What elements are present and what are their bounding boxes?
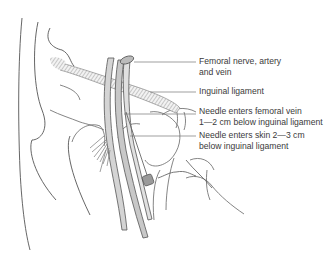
label-line-2: 1—2 cm below inguinal ligament [199,117,323,128]
thigh-outline [186,160,212,188]
body-outline [19,18,90,250]
label-line-1: Needle enters skin 2—3 cm [199,130,305,141]
label-line-1: Inguinal ligament [199,86,264,97]
label-needle-enters-skin: Needle enters skin 2—3 cm below inguinal… [199,130,305,151]
label-line-1: Needle enters femoral vein [199,106,323,117]
label-needle-enters-femoral-vein: Needle enters femoral vein 1—2 cm below … [199,106,323,127]
label-line-2: and vein [199,67,281,78]
label-line-2: below inguinal ligament [199,141,305,152]
femoral-anatomy-illustration [0,0,325,257]
label-femoral-nerve-artery-vein: Femoral nerve, artery and vein [199,56,281,77]
label-line-1: Femoral nerve, artery [199,56,281,67]
label-inguinal-ligament: Inguinal ligament [199,86,264,97]
